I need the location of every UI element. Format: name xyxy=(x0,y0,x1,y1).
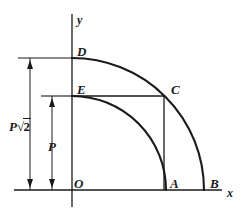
inner-arc xyxy=(72,96,166,190)
point-label-b: B xyxy=(210,177,219,190)
point-label-a: A xyxy=(170,177,179,190)
point-label-e: E xyxy=(77,83,86,96)
geometry-figure: y x D E C O A B P√2 P xyxy=(0,0,242,216)
inner-dimension-label: P xyxy=(48,140,56,153)
point-label-c: C xyxy=(171,83,180,96)
outer-dimension-arrow-bottom xyxy=(27,179,33,188)
outer-dimension-arrow-top xyxy=(27,60,33,69)
point-label-d: D xyxy=(77,45,86,58)
outer-dimension-label: P√2 xyxy=(9,120,31,133)
y-axis-label: y xyxy=(77,14,82,26)
inner-dimension-arrow-bottom xyxy=(49,179,55,188)
outer-dimension-label-p: P xyxy=(9,119,17,134)
outer-dimension-label-radicand: 2 xyxy=(23,118,31,134)
diagram-canvas xyxy=(0,0,242,216)
x-axis-label: x xyxy=(227,187,233,199)
point-label-o: O xyxy=(74,177,83,190)
inner-dimension-arrow-top xyxy=(49,98,55,107)
